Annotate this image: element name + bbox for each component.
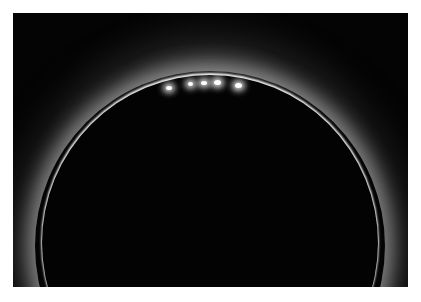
- eclipse-photo: [13, 13, 408, 287]
- bailys-bead: [201, 81, 207, 85]
- bailys-bead: [166, 86, 172, 90]
- bailys-bead: [188, 82, 193, 86]
- bailys-bead: [235, 83, 242, 88]
- bailys-bead: [214, 80, 221, 85]
